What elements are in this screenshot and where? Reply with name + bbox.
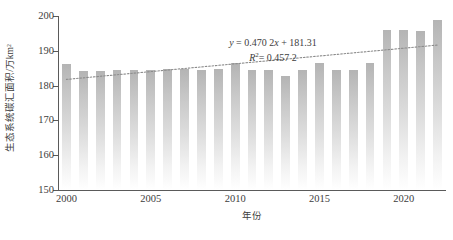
bar-2012 — [264, 70, 273, 190]
bar-2000 — [62, 64, 71, 190]
y-tick-label: 150 — [38, 183, 54, 197]
x-axis-line — [58, 190, 446, 191]
x-tick-label-2000: 2000 — [56, 192, 77, 206]
r-squared-text: R2= 0.457 2 — [198, 49, 348, 64]
x-axis-ticks: 20002005201020152020 — [58, 192, 446, 208]
bar-2017 — [349, 70, 358, 190]
y-tick-label: 160 — [38, 148, 54, 162]
y-tick-label: 200 — [38, 9, 54, 23]
regression-annotation: y = 0.470 2x + 181.31 R2= 0.457 2 — [198, 36, 348, 64]
bar-2020 — [399, 30, 408, 190]
bar-2018 — [366, 63, 375, 190]
bar-2002 — [96, 71, 105, 190]
bar-2016 — [332, 70, 341, 190]
x-tick-label-2015: 2015 — [309, 192, 330, 206]
x-tick-label-2005: 2005 — [140, 192, 161, 206]
bar-2006 — [163, 69, 172, 190]
eq-intercept: + 181.31 — [279, 37, 317, 48]
bar-2007 — [180, 69, 189, 190]
bar-2013 — [281, 76, 290, 190]
bar-2014 — [298, 70, 307, 190]
bar-2009 — [214, 69, 223, 190]
y-tick-label: 170 — [38, 113, 54, 127]
y-axis-title-label: 生态系统碳汇面积/万km² — [2, 44, 16, 152]
bar-2021 — [416, 31, 425, 190]
regression-equation-text: y = 0.470 2x + 181.31 — [198, 36, 348, 49]
bar-2005 — [146, 70, 155, 190]
x-axis-title: 年份 — [58, 208, 446, 222]
bar-2022 — [433, 20, 442, 190]
bar-2019 — [383, 30, 392, 190]
plot-area: 150160170180190200 y = 0.470 2x + 181.31… — [58, 16, 446, 190]
y-axis-title: 生态系统碳汇面积/万km² — [0, 0, 18, 196]
bar-2004 — [130, 70, 139, 190]
bar-2001 — [79, 71, 88, 190]
bar-2011 — [248, 70, 257, 190]
y-tick-label: 180 — [38, 79, 54, 93]
eq-coefficient: = 0.470 2 — [234, 37, 275, 48]
x-tick-label-2010: 2010 — [225, 192, 246, 206]
bar-2003 — [113, 70, 122, 190]
y-tick-label: 190 — [38, 44, 54, 58]
bar-2010 — [231, 63, 240, 190]
ecosystem-carbon-sink-area-chart: 生态系统碳汇面积/万km² 150160170180190200 y = 0.4… — [0, 0, 453, 240]
bar-2008 — [197, 70, 206, 190]
r-squared-value: = 0.457 2 — [259, 52, 297, 63]
bar-2015 — [315, 63, 324, 190]
x-tick-label-2020: 2020 — [393, 192, 414, 206]
